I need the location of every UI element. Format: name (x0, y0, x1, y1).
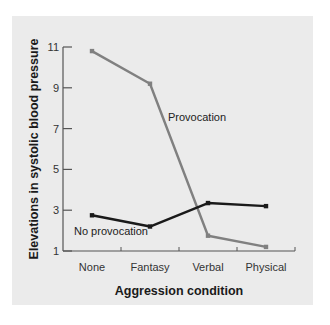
y-tick-label: 3 (53, 204, 59, 216)
y-axis-title: Elevations in systolic blood pressure (27, 39, 41, 260)
labels: ProvocationNo provocation (74, 111, 226, 237)
data-point-marker (206, 234, 210, 238)
data-point-marker (148, 82, 152, 86)
axes: 1357911NoneFantasyVerbalPhysicalAggressi… (27, 39, 295, 298)
series-lines (90, 49, 268, 249)
data-point-marker (264, 245, 268, 249)
x-tick-label: Fantasy (130, 261, 170, 273)
data-point-marker (90, 49, 94, 53)
y-tick-label: 11 (48, 41, 59, 53)
data-point-marker (206, 201, 210, 205)
x-tick-label: Physical (246, 261, 287, 273)
y-tick-label: 5 (53, 163, 59, 175)
data-point-marker (90, 213, 94, 217)
y-tick-label: 9 (53, 82, 59, 94)
x-axis-title: Aggression condition (115, 284, 243, 298)
y-tick-label: 1 (53, 245, 59, 257)
line-chart: 1357911NoneFantasyVerbalPhysicalAggressi… (0, 0, 330, 325)
series-label-no-provocation: No provocation (74, 225, 148, 237)
data-point-marker (148, 224, 152, 228)
x-tick-label: Verbal (192, 261, 223, 273)
series-label-provocation: Provocation (168, 111, 226, 123)
series-line-provocation (92, 51, 266, 247)
y-tick-label: 7 (53, 123, 59, 135)
series-line-no-provocation (92, 203, 266, 226)
data-point-marker (264, 204, 268, 208)
x-tick-label: None (79, 261, 105, 273)
